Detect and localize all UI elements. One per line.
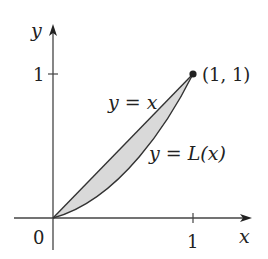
point-1-1 [189, 70, 196, 77]
origin-label: 0 [33, 227, 44, 248]
curve-label: y = L(x) [148, 142, 226, 164]
y-axis-label: y [30, 19, 42, 41]
lorenz-chart: y x 0 1 1 (1, 1) y = x y = L(x) [0, 0, 268, 259]
x-tick-1-label: 1 [187, 231, 198, 252]
x-axis-label: x [239, 225, 250, 247]
line-label: y = x [107, 91, 158, 113]
y-tick-1-label: 1 [33, 64, 44, 85]
point-label: (1, 1) [202, 64, 250, 85]
